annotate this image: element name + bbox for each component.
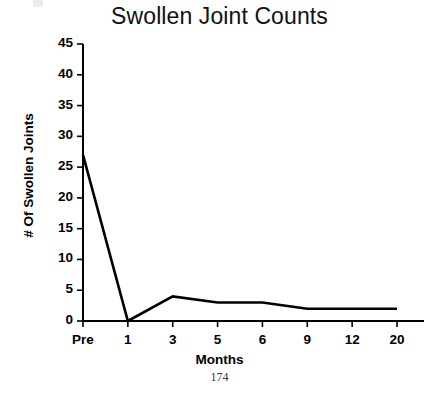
- y-axis-tick-label: 10: [33, 250, 73, 265]
- page-number: 174: [0, 370, 439, 385]
- y-axis-tick-label: 5: [33, 281, 73, 296]
- chart-axes: [83, 44, 424, 321]
- y-axis-tick-label: 40: [33, 66, 73, 81]
- y-axis-tick-label: 45: [33, 35, 73, 50]
- data-series-line: [83, 155, 397, 321]
- y-axis-tick-label: 20: [33, 189, 73, 204]
- y-axis-tick-label: 0: [33, 312, 73, 327]
- y-axis-tick-label: 25: [33, 158, 73, 173]
- y-axis-tick-label: 35: [33, 97, 73, 112]
- x-axis-tick-label: 20: [367, 332, 427, 347]
- x-axis-label: Months: [0, 352, 439, 367]
- chart-figure: Swollen Joint Counts # Of Swollen Joints…: [0, 0, 439, 393]
- y-axis-tick-label: 30: [33, 127, 73, 142]
- y-axis-tick-label: 15: [33, 220, 73, 235]
